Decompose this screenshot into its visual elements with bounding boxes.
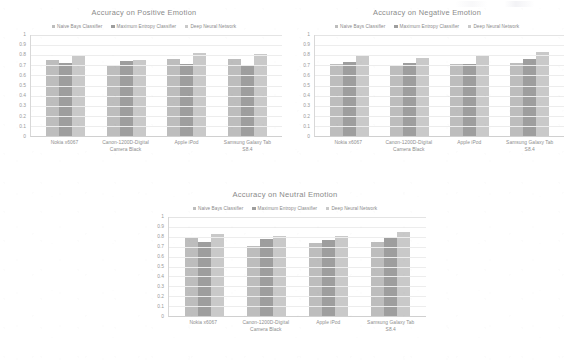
bar: [397, 232, 410, 316]
y-axis-tick-label: 1: [23, 33, 26, 38]
y-axis-tick-label: 0.1: [157, 305, 164, 310]
y-axis: 10.90.80.70.60.50.40.30.20.10: [288, 35, 312, 137]
gridline: [31, 45, 282, 46]
y-axis-tick-label: 0.4: [157, 275, 164, 280]
chart-legend: Naive Bays ClassifierMaximum Entropy Cla…: [142, 206, 428, 211]
chart-accuracy-positive-emotion: Accuracy on Positive Emotion Naive Bays …: [4, 8, 284, 188]
y-axis-tick-label: 0.6: [157, 255, 164, 260]
chart-accuracy-neutral-emotion: Accuracy on Neutral Emotion Naive Bays C…: [142, 190, 428, 360]
y-axis-tick-label: 1: [307, 33, 310, 38]
legend-swatch-icon: [335, 25, 338, 28]
x-axis-label: Canon-1200D-Digital Camera Black: [381, 140, 437, 162]
bar: [416, 58, 429, 136]
y-axis-tick-label: 0.8: [157, 235, 164, 240]
y-axis-tick-label: 0.8: [19, 53, 26, 58]
y-axis-tick-label: 0.7: [19, 63, 26, 68]
gridline: [31, 116, 282, 117]
legend-swatch-icon: [52, 25, 55, 28]
gridline: [169, 227, 426, 228]
bar: [46, 60, 59, 136]
gridline: [315, 96, 564, 97]
y-axis: 10.90.80.70.60.50.40.30.20.10: [142, 217, 166, 317]
gridline: [315, 45, 564, 46]
y-axis-tick-label: 0.3: [157, 285, 164, 290]
legend-item: Naive Bays Classifier: [52, 24, 103, 29]
gridline: [315, 65, 564, 66]
legend-item: Maximum Entropy Classifier: [394, 24, 459, 29]
y-axis-tick-label: 0.2: [303, 114, 310, 119]
plot-wrap: 10.90.80.70.60.50.40.30.20.10: [288, 35, 566, 137]
legend-label: Naive Bays Classifier: [198, 206, 243, 211]
legend-item: Maximum Entropy Classifier: [111, 24, 176, 29]
y-axis-tick-label: 0.5: [303, 84, 310, 89]
legend-swatch-icon: [193, 207, 196, 210]
legend-label: Naive Bays Classifier: [57, 24, 102, 29]
gridline: [31, 126, 282, 127]
legend-item: Deep Neural Network: [468, 24, 519, 29]
gridline: [169, 276, 426, 277]
plot-wrap: 10.90.80.70.60.50.40.30.20.10: [142, 217, 428, 317]
y-axis-tick-label: 0.7: [157, 245, 164, 250]
y-axis-tick-label: 0.3: [19, 104, 26, 109]
chart-title: Accuracy on Neutral Emotion: [142, 190, 428, 199]
gridline: [315, 116, 564, 117]
bar: [133, 60, 146, 136]
y-axis-tick-label: 0.5: [19, 84, 26, 89]
gridline: [315, 86, 564, 87]
x-axis-label: Nokia x6067: [175, 320, 231, 342]
y-axis-tick-label: 0.2: [19, 114, 26, 119]
x-axis-label: Samsung Galaxy Tab S8.4: [502, 140, 558, 162]
chart-legend: Naive Bays ClassifierMaximum Entropy Cla…: [4, 24, 284, 29]
y-axis-tick-label: 0.9: [19, 43, 26, 48]
y-axis-tick-label: 0.6: [19, 73, 26, 78]
gridline: [169, 286, 426, 287]
plot-wrap: 10.90.80.70.60.50.40.30.20.10: [4, 35, 284, 137]
gridline: [31, 86, 282, 87]
gridline: [315, 35, 564, 36]
legend-label: Deep Neural Network: [190, 24, 236, 29]
y-axis-tick-label: 0: [307, 135, 310, 140]
gridline: [31, 55, 282, 56]
gridline: [31, 106, 282, 107]
x-axis-label: Apple iPod: [300, 320, 356, 342]
y-axis-tick-label: 0.1: [303, 124, 310, 129]
x-axis-labels: Nokia x6067Canon-1200D-Digital Camera Bl…: [168, 320, 426, 342]
gridline: [315, 126, 564, 127]
gridline: [31, 75, 282, 76]
x-axis-label: Canon-1200D-Digital Camera Black: [238, 320, 294, 342]
plot-area: [30, 35, 282, 137]
gridline: [169, 306, 426, 307]
legend-item: Naive Bays Classifier: [193, 206, 244, 211]
bar: [371, 242, 384, 316]
chart-title: Accuracy on Negative Emotion: [288, 8, 566, 17]
legend-item: Deep Neural Network: [326, 206, 377, 211]
legend-swatch-icon: [468, 25, 471, 28]
legend-label: Maximum Entropy Classifier: [400, 24, 460, 29]
x-axis-label: Apple iPod: [441, 140, 497, 162]
x-axis-label: Samsung Galaxy Tab S8.4: [363, 320, 419, 342]
y-axis-tick-label: 0.2: [157, 295, 164, 300]
legend-item: Deep Neural Network: [185, 24, 236, 29]
legend-item: Naive Bays Classifier: [335, 24, 386, 29]
legend-label: Naive Bays Classifier: [340, 24, 385, 29]
y-axis: 10.90.80.70.60.50.40.30.20.10: [4, 35, 28, 137]
chart-accuracy-negative-emotion: Accuracy on Negative Emotion Naive Bays …: [288, 8, 566, 188]
bar: [120, 61, 133, 136]
gridline: [315, 106, 564, 107]
gridline: [169, 217, 426, 218]
x-axis-label: Samsung Galaxy Tab S8.4: [220, 140, 276, 162]
legend-swatch-icon: [252, 207, 255, 210]
bar: [523, 59, 536, 136]
chart-title: Accuracy on Positive Emotion: [4, 8, 284, 17]
bar: [309, 243, 322, 316]
bar: [260, 239, 273, 316]
y-axis-tick-label: 0.9: [157, 225, 164, 230]
chart-legend: Naive Bays ClassifierMaximum Entropy Cla…: [288, 24, 566, 29]
bar: [228, 59, 241, 136]
y-axis-tick-label: 0.4: [19, 94, 26, 99]
bar: [322, 240, 335, 316]
y-axis-tick-label: 0.4: [303, 94, 310, 99]
plot-area: [168, 217, 426, 317]
gridline: [315, 55, 564, 56]
y-axis-tick-label: 0.1: [19, 124, 26, 129]
